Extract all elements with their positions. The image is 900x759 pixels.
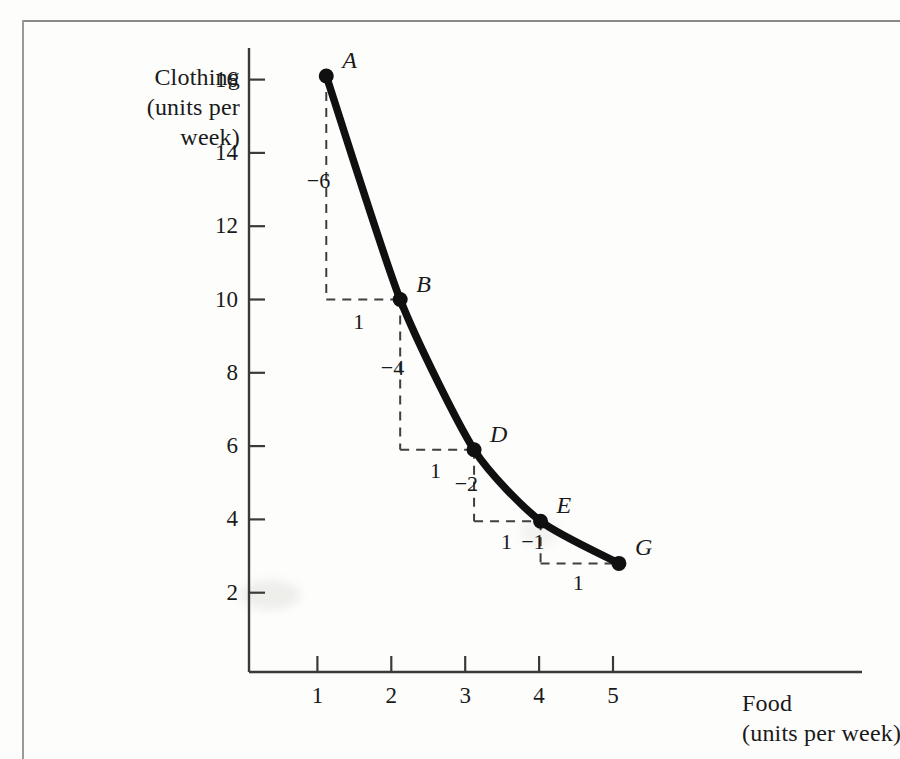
annotation-drop-a-to-b: −6 — [296, 170, 330, 192]
x-tick-label: 4 — [514, 684, 564, 707]
annotation-run-e-to-g: 1 — [550, 572, 584, 594]
y-tick-label: 2 — [190, 581, 238, 604]
y-tick-label: 4 — [190, 507, 238, 530]
x-axis-ticks — [317, 656, 613, 672]
y-tick-label: 8 — [190, 361, 238, 384]
y-tick-label: 16 — [190, 68, 238, 91]
data-point-label-e: E — [557, 493, 572, 517]
y-axis-ticks — [249, 80, 265, 593]
x-tick-label: 2 — [366, 684, 416, 707]
y-tick-label: 6 — [190, 434, 238, 457]
data-point-label-a: A — [342, 48, 357, 72]
annotation-drop-d-to-e: −2 — [444, 473, 478, 495]
annotation-drop-e-to-g: −1 — [511, 531, 545, 553]
y-tick-label: 10 — [190, 288, 238, 311]
annotation-run-d-to-e: 1 — [478, 531, 512, 553]
annotation-drop-b-to-d: −4 — [370, 357, 404, 379]
chart-page: Clothing (units per week) Food (units pe… — [0, 0, 900, 759]
chart-plot-area — [0, 0, 900, 759]
annotation-run-a-to-b: 1 — [330, 311, 364, 333]
annotation-run-b-to-d: 1 — [407, 460, 441, 482]
data-point-label-g: G — [635, 535, 652, 559]
y-tick-label: 14 — [190, 141, 238, 164]
x-tick-label: 5 — [588, 684, 638, 707]
y-tick-label: 12 — [190, 214, 238, 237]
x-tick-label: 1 — [292, 684, 342, 707]
x-tick-label: 3 — [440, 684, 490, 707]
data-point-label-d: D — [490, 422, 507, 446]
data-point-label-b: B — [416, 272, 431, 296]
